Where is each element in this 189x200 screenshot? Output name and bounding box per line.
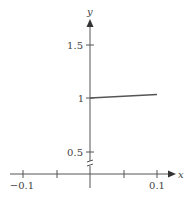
data-line	[90, 95, 157, 99]
x-tick-label: 0.1	[149, 180, 165, 191]
y-tick-label: 0.5	[67, 147, 83, 158]
y-tick-label: 1.5	[67, 40, 83, 51]
axis-break-icon	[87, 160, 93, 166]
x-axis-arrow-icon	[168, 171, 176, 178]
y-axis-label: y	[86, 6, 93, 17]
plot-area: y x 1.5 1 0.5 −0.1 0.1	[0, 0, 189, 200]
chart: y x 1.5 1 0.5 −0.1 0.1	[0, 0, 189, 200]
x-axis-label: x	[178, 169, 184, 180]
y-axis-arrow-icon	[87, 19, 94, 27]
y-tick-label: 1	[78, 93, 84, 104]
x-tick-label: −0.1	[10, 180, 34, 191]
